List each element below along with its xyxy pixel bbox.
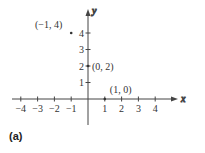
x-tick-label: 1 [102,103,107,114]
y-tick-label: 1 [79,77,84,88]
x-tick-label: 3 [136,103,141,114]
x-tick-label: −3 [32,103,43,114]
point-label: (−1, 4) [35,19,62,31]
x-tick-label: 2 [119,103,124,114]
y-axis-label: y [91,5,97,16]
y-tick-label: 3 [79,44,84,55]
point-label: (1, 0) [110,84,132,96]
data-point [87,65,90,68]
y-axis-arrow-icon [86,9,91,16]
y-tick-label: 2 [79,61,84,72]
ticks: −4−3−2−112341234 [15,28,157,115]
x-axis-label: x [180,93,186,104]
point-label: (0, 2) [92,61,114,73]
x-tick-label: −1 [66,103,77,114]
y-tick-label: 4 [79,28,84,39]
figure-label: (a) [9,130,22,142]
x-tick-label: −4 [15,103,26,114]
data-point [70,32,73,35]
data-point [104,98,107,101]
x-axis-arrow-icon [171,97,178,102]
x-tick-label: 4 [153,103,158,114]
coordinate-plot: xy −4−3−2−112341234 (−1, 4)(0, 2)(1, 0) [0,0,205,153]
x-tick-label: −2 [49,103,60,114]
